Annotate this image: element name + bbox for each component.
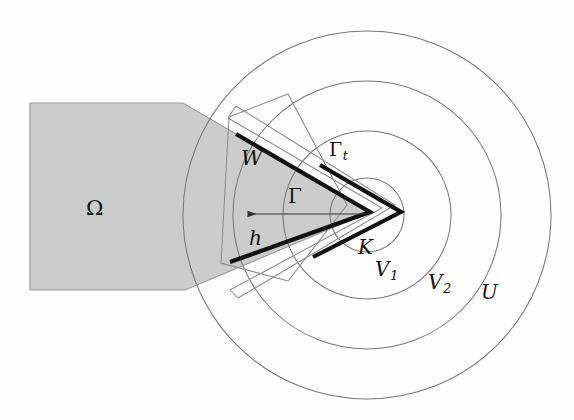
label-gamma: Γ xyxy=(288,186,302,206)
label-v1-base: V xyxy=(375,257,389,281)
label-u: U xyxy=(481,282,498,302)
label-v1: V1 xyxy=(375,259,398,282)
figure-container: Ω W Γ Γt h K V1 V2 U xyxy=(0,0,574,420)
omega-region xyxy=(30,103,370,290)
label-v2-subscript: 2 xyxy=(443,281,451,296)
label-gamma-t: Γt xyxy=(329,140,348,162)
label-v1-subscript: 1 xyxy=(390,268,398,283)
label-v2: V2 xyxy=(428,272,451,295)
label-v2-base: V xyxy=(428,270,442,294)
label-k: K xyxy=(358,237,373,257)
label-w: W xyxy=(241,148,263,169)
label-h: h xyxy=(249,228,262,248)
label-omega: Ω xyxy=(86,198,103,219)
label-gamma-t-base: Γ xyxy=(329,138,342,160)
label-gamma-t-subscript: t xyxy=(343,148,348,163)
